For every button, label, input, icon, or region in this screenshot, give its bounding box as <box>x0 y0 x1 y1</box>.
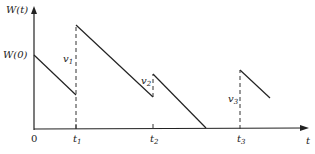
y-axis-label: W(t) <box>6 4 28 15</box>
x-axis <box>34 125 309 131</box>
jump-label-v2: v2 <box>141 75 152 88</box>
tick-label-t3: t3 <box>237 133 246 146</box>
workload-sawtooth-diagram: W(t) t W(0) 0 t1 t2 t3 v1 v2 v3 <box>0 0 315 154</box>
x-axis-arrow-icon <box>300 125 309 131</box>
tick-label-t1: t1 <box>73 133 82 146</box>
y-axis-arrow-icon <box>31 6 37 14</box>
x-axis-label: t <box>306 135 311 146</box>
decay-segment-1 <box>76 25 153 97</box>
initial-value-label: W(0) <box>3 49 28 60</box>
tick-label-t2: t2 <box>150 133 159 146</box>
decay-segment-2 <box>153 74 206 128</box>
jump-label-v3: v3 <box>228 93 239 106</box>
decay-segment-3 <box>240 70 270 98</box>
origin-label: 0 <box>31 133 37 144</box>
y-axis <box>31 6 37 130</box>
jump-label-v1: v1 <box>63 53 73 66</box>
